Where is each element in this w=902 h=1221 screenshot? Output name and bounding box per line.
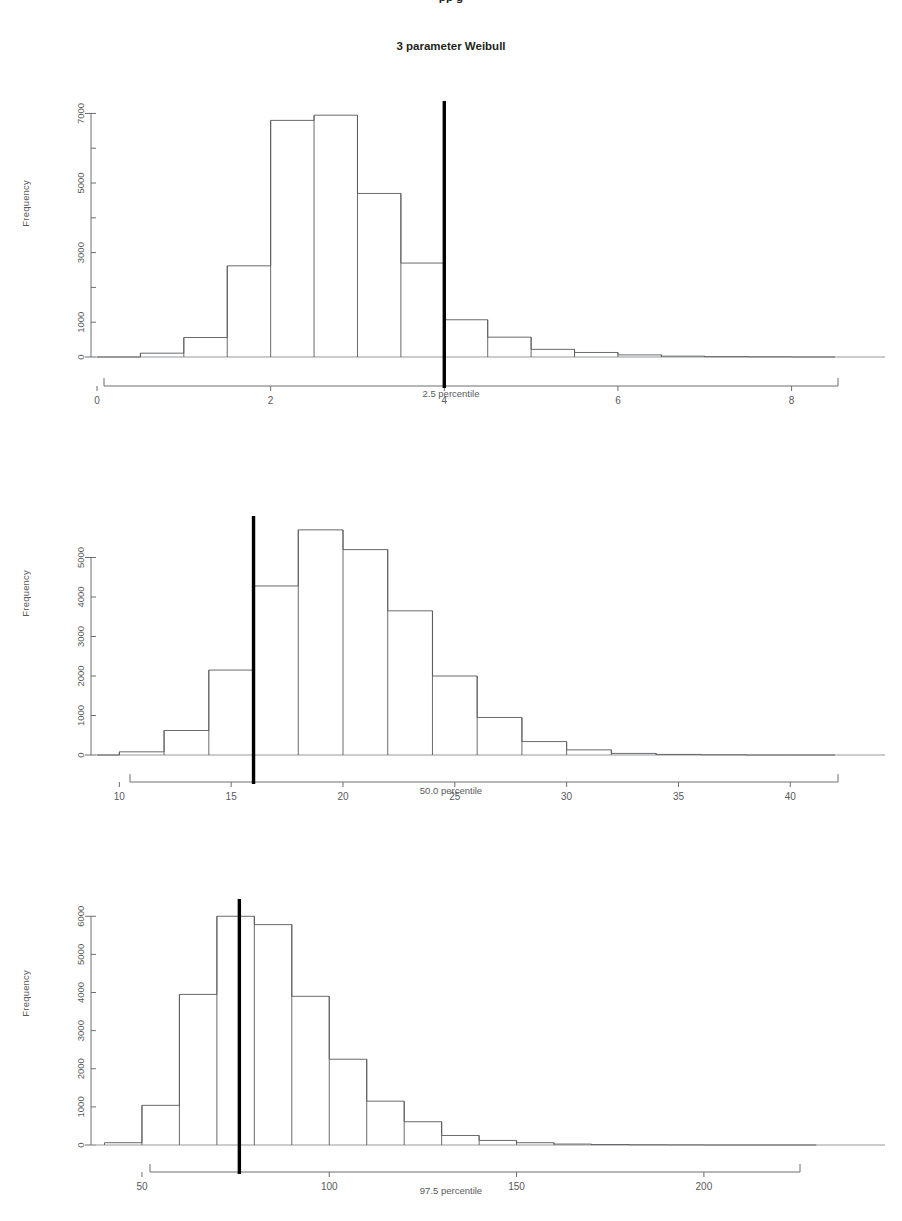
y-tick-label: 0 [75,1142,86,1147]
y-tick-label: 3000 [75,242,86,263]
y-tick-label: 0 [75,752,86,757]
histogram-plot-1: 0100030005000700002468 [0,45,902,405]
y-tick-label: 4000 [75,982,86,1003]
x-axis-label-3: 97.5 percentile [0,1185,902,1196]
y-tick-label: 1000 [75,705,86,726]
panel-50-0-percentile: Frequency 010002000300040005000101520253… [0,440,902,830]
y-tick-label: 4000 [75,586,86,607]
y-tick-label: 2000 [75,665,86,686]
histogram-plot-2: 01000200030004000500010152025303540 [0,455,902,800]
figure-page: pp g 3 parameter Weibull Frequency 01000… [0,0,902,1221]
panel-97-5-percentile: Frequency 010002000300040005000600050100… [0,840,902,1221]
y-tick-label: 3000 [75,1020,86,1041]
x-axis-label-2: 50.0 percentile [0,785,902,796]
y-tick-label: 0 [75,354,86,359]
y-tick-label: 6000 [75,906,86,927]
y-tick-label: 2000 [75,1058,86,1079]
y-tick-label: 3000 [75,626,86,647]
clipped-header-text: pp g [0,0,902,10]
y-tick-label: 1000 [75,1096,86,1117]
panel-2-5-percentile: 3 parameter Weibull Frequency 0100030005… [0,30,902,420]
y-tick-label: 5000 [75,547,86,568]
y-tick-label: 5000 [75,172,86,193]
y-tick-label: 7000 [75,103,86,124]
histogram-plot-3: 010002000300040005000600050100150200 [0,855,902,1185]
y-tick-label: 5000 [75,944,86,965]
histogram-bars [104,916,816,1145]
clipped-header-label: pp g [439,0,463,3]
x-axis-label-1: 2.5 percentile [0,388,902,399]
y-tick-label: 1000 [75,312,86,333]
histogram-bars [97,115,835,357]
histogram-bars [97,530,835,755]
